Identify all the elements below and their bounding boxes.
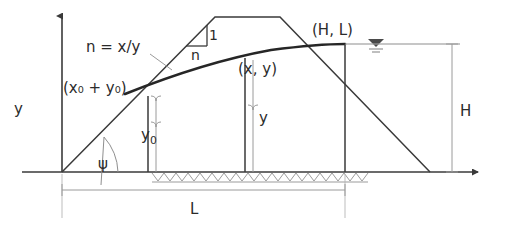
general-point-label: (x, y) xyxy=(238,62,277,77)
slope-triangle-vertical-label: 1 xyxy=(209,28,218,42)
exit-point-label: (H, L) xyxy=(312,23,353,38)
ordinate-y0-label: y0 xyxy=(141,128,157,147)
height-dimension-label: H xyxy=(460,104,471,119)
slope-ratio-leader xyxy=(150,54,172,70)
diagram-canvas xyxy=(0,0,507,240)
water-table-icon xyxy=(368,39,384,52)
ground-hatch-pattern xyxy=(152,173,368,182)
phreatic-line-curve xyxy=(125,44,345,94)
slope-triangle-horizontal-label: n xyxy=(191,48,200,62)
ordinate-y0-subscript: 0 xyxy=(150,134,157,147)
slope-ratio-label: n = x/y xyxy=(86,40,140,55)
ordinate-y0-base: y xyxy=(141,126,150,144)
y-axis-label: y xyxy=(14,102,23,117)
slope-angle-label: ψ xyxy=(98,157,108,172)
length-dimension-label: L xyxy=(190,202,198,217)
seepage-diagram: y n = x/y 1 n (x₀ + y₀) (x, y) (H, L) H … xyxy=(0,0,507,240)
entry-point-text: (x₀ + y₀) xyxy=(63,79,127,97)
entry-point-label: (x₀ + y₀) xyxy=(63,81,127,96)
ordinate-y-label: y xyxy=(259,111,268,126)
